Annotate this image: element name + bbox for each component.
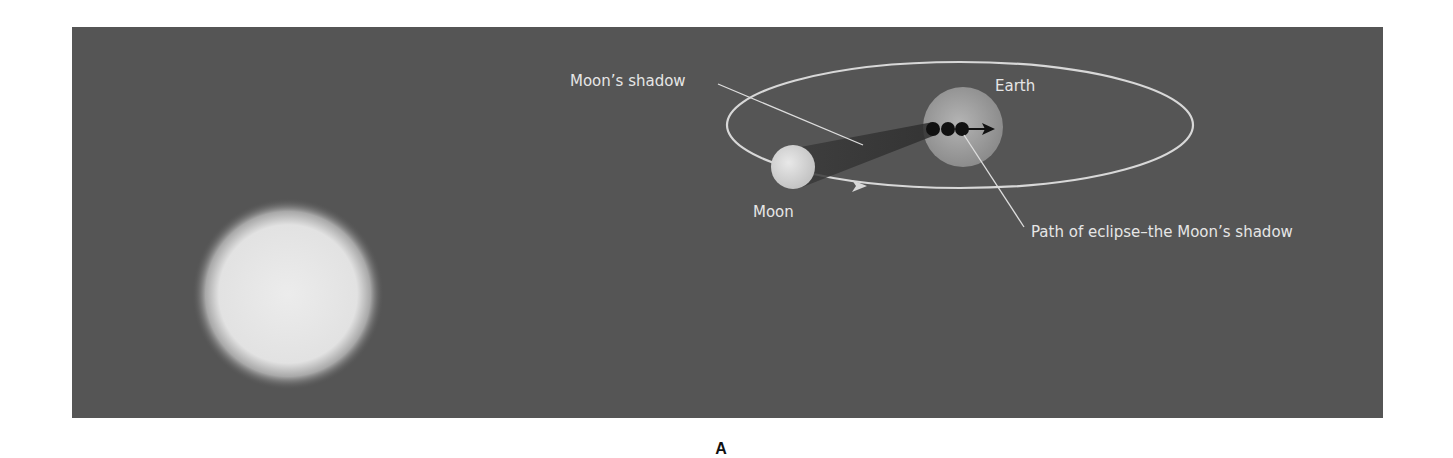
moon: [771, 145, 815, 189]
panel-letter: A: [715, 440, 727, 457]
label-path-of-eclipse: Path of eclipse–the Moon’s shadow: [1031, 223, 1293, 241]
sun: [192, 198, 384, 390]
label-earth: Earth: [995, 77, 1035, 95]
label-moons-shadow: Moon’s shadow: [570, 72, 686, 90]
solar-eclipse-diagram: Moon’s shadow Earth Moon Path of eclipse…: [0, 0, 1453, 458]
label-moon: Moon: [753, 203, 794, 221]
